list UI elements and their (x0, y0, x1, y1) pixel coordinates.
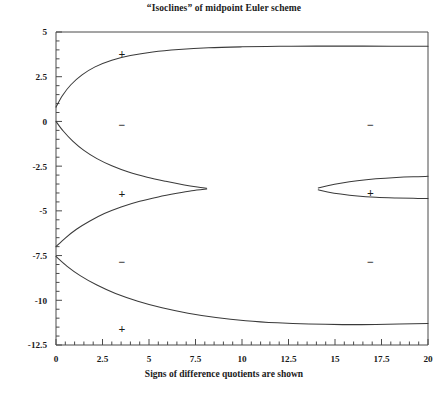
sign-annotation: + (119, 322, 126, 336)
svg-text:20: 20 (423, 354, 433, 364)
svg-text:12.5: 12.5 (280, 354, 296, 364)
sign-annotation: − (119, 255, 126, 269)
sign-annotation: − (119, 118, 126, 132)
sign-annotation: + (119, 187, 126, 201)
svg-text:17.5: 17.5 (373, 354, 389, 364)
sign-annotations: +−+−+−+− (119, 47, 374, 336)
plot-area: 02.557.51012.51517.520 52.50-2.5-5-7.5-1… (0, 0, 448, 401)
isocline-curve (56, 121, 207, 188)
svg-text:-10: -10 (35, 296, 48, 306)
svg-text:5: 5 (42, 27, 47, 37)
sign-annotation: − (367, 118, 374, 132)
sign-annotation: − (367, 255, 374, 269)
svg-text:7.5: 7.5 (190, 354, 202, 364)
svg-text:10: 10 (237, 354, 247, 364)
sign-annotation: + (367, 186, 374, 200)
x-axis-label: Signs of difference quotients are shown (0, 369, 448, 379)
chart-figure: “Isoclines” of midpoint Euler scheme 02.… (0, 0, 448, 401)
svg-text:0: 0 (54, 354, 59, 364)
x-axis-tick-labels: 02.557.51012.51517.520 (54, 354, 433, 364)
svg-text:15: 15 (330, 354, 340, 364)
svg-text:0: 0 (42, 117, 47, 127)
y-axis-ticks (56, 32, 62, 345)
svg-text:-12.5: -12.5 (28, 340, 48, 350)
isocline-curve (56, 46, 428, 107)
isocline-curve (56, 189, 207, 247)
svg-text:-7.5: -7.5 (32, 251, 47, 261)
x-axis-ticks (56, 339, 428, 345)
svg-text:-2.5: -2.5 (32, 162, 47, 172)
svg-text:2.5: 2.5 (36, 72, 48, 82)
sign-annotation: + (119, 47, 126, 61)
svg-text:2.5: 2.5 (97, 354, 109, 364)
y-axis-tick-labels: 52.50-2.5-5-7.5-10-12.5 (28, 27, 48, 350)
svg-text:5: 5 (147, 354, 152, 364)
svg-text:-5: -5 (39, 206, 47, 216)
